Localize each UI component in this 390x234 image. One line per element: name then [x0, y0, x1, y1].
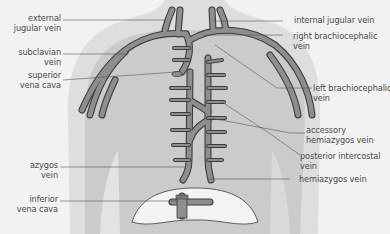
- label-left-brachiocephalic-vein: left brachiocephalic vein: [313, 83, 390, 103]
- label-hemiazygos-vein: hemiazygos vein: [299, 174, 367, 184]
- label-posterior-intercostal-vein: posterior intercostal vein: [300, 151, 380, 171]
- label-internal-jugular-vein: internal jugular vein: [294, 15, 374, 25]
- label-superior-vena-cava: superior vena cava: [0, 70, 61, 90]
- label-subclavian-vein: subclavian vein: [0, 47, 61, 67]
- label-external-jugular-vein: external jugular vein: [0, 13, 61, 33]
- label-right-brachiocephalic-vein: right brachiocephalic vein: [293, 31, 377, 51]
- label-inferior-vena-cava: inferior vena cava: [0, 194, 58, 214]
- ivc-vessel: [177, 196, 187, 218]
- vein-diagram: external jugular vein subclavian vein su…: [0, 0, 390, 234]
- label-azygos-vein: azygos vein: [0, 160, 58, 180]
- label-accessory-hemiazygos-vein: accessory hemiazygos vein: [306, 125, 374, 145]
